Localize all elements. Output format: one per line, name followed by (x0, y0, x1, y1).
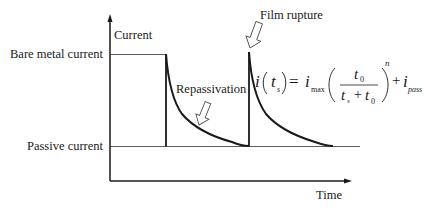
formula-denominator-b: t (365, 87, 369, 104)
formula-t: t (271, 72, 276, 92)
formula-numerator-sub: 0 (360, 75, 364, 84)
current-transient-diagram: Current Bare metal current Passive curre… (0, 0, 424, 211)
film-rupture-label: Film rupture (260, 9, 323, 22)
decay-curve-1 (166, 54, 249, 146)
formula-plus: + (354, 87, 362, 103)
formula-denominator-a: t (341, 87, 345, 104)
x-axis-label: Time (316, 189, 342, 202)
formula-t-sub: s (277, 85, 280, 94)
bare-metal-current-label: Bare metal current (10, 48, 103, 61)
formula-i: i (255, 72, 260, 92)
y-axis-label: Current (114, 29, 152, 42)
formula-exponent: n (385, 58, 390, 68)
formula-equals: = (289, 72, 299, 92)
film-rupture-arrow-icon (242, 20, 266, 51)
formula-ipass-sub: pass (408, 85, 422, 94)
formula-denominator-b-sub: 0 (371, 97, 375, 106)
x-axis-arrowhead-icon (344, 179, 352, 184)
passive-current-label: Passive current (27, 140, 103, 153)
formula-denominator-a-sub: s (347, 97, 350, 105)
formula-imax: i (305, 72, 310, 92)
y-axis-arrowhead-icon (108, 14, 113, 22)
repassivation-label: Repassivation (176, 83, 246, 96)
formula-numerator: t (354, 66, 358, 83)
formula-plus-2: + (392, 72, 400, 89)
formula-imax-sub: max (311, 85, 325, 94)
repassivation-arrow-icon (193, 100, 215, 127)
